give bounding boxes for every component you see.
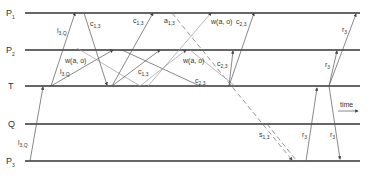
- process-label-p1: P1: [6, 8, 15, 20]
- label-c13-b: c1,3: [133, 17, 144, 26]
- label-r3-mid: r3: [325, 61, 330, 70]
- label-c13-c: c1,3: [138, 68, 149, 77]
- message-r3-t-to-p3: [329, 86, 340, 159]
- process-label-q: Q: [8, 119, 15, 129]
- message-w-a-o-t-to-p2: [140, 50, 186, 86]
- label-r3-top: r3: [342, 26, 347, 35]
- diagram-canvas: P1 P2 T Q P3 time l3,Q c1,3 c1,3 a1,3 w(…: [0, 0, 376, 178]
- label-w-a-o-left: w(a, o): [64, 57, 86, 65]
- label-w-a-o-top: w(a, o): [210, 18, 232, 26]
- message-c13-p2-to-t: [122, 50, 200, 86]
- label-a13: a1,3: [164, 17, 175, 26]
- process-label-t: T: [8, 81, 14, 91]
- time-label: time: [340, 101, 353, 108]
- process-label-p2: P2: [6, 45, 15, 57]
- label-c13-a: c1,3: [90, 20, 101, 29]
- label-r3-q2: r3: [330, 131, 335, 140]
- label-s13: s1,3: [259, 131, 270, 140]
- label-l3q-bot: l3,Q: [18, 139, 28, 148]
- label-c23-a: c2,3: [236, 18, 247, 27]
- label-c23-b: c2,3: [217, 60, 228, 69]
- label-r3-q1: r3: [302, 131, 307, 140]
- space-time-diagram: P1 P2 T Q P3 time l3,Q c1,3 c1,3 a1,3 w(…: [0, 0, 376, 178]
- label-l3q-mid: l3,Q: [60, 68, 70, 77]
- label-l3q-top: l3,Q: [57, 27, 67, 36]
- label-w-a-o-mid: w(a, o): [182, 57, 204, 65]
- message-s13-q-to-p3: [267, 124, 296, 160]
- process-label-p3: P3: [6, 156, 15, 168]
